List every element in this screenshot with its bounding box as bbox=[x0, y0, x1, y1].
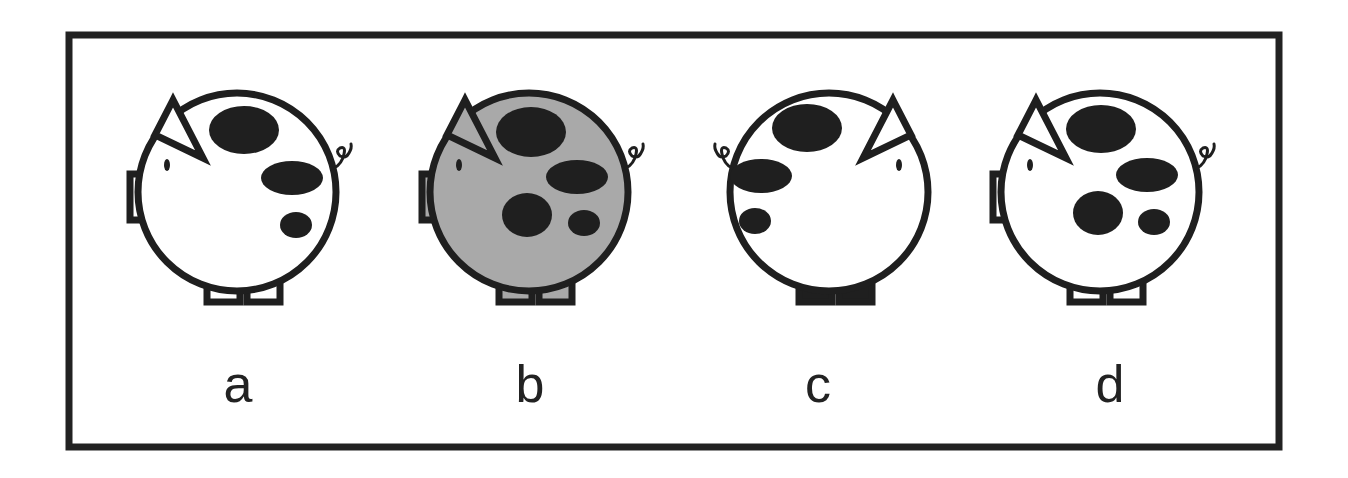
spot bbox=[209, 106, 279, 154]
pig-a[interactable] bbox=[130, 93, 351, 302]
spot bbox=[730, 159, 792, 193]
pig-d[interactable] bbox=[993, 93, 1214, 302]
spot bbox=[280, 212, 312, 238]
pig-options: abcd bbox=[130, 93, 1214, 413]
eye-dot bbox=[164, 159, 170, 171]
curly-tail bbox=[626, 144, 643, 168]
spot bbox=[739, 208, 771, 234]
spot bbox=[772, 104, 842, 152]
spot bbox=[1138, 209, 1170, 235]
spot bbox=[502, 193, 552, 237]
option-label-d: d bbox=[1096, 355, 1125, 413]
spot bbox=[568, 210, 600, 236]
curly-tail bbox=[1197, 144, 1214, 168]
curly-tail bbox=[334, 144, 351, 168]
spot bbox=[1116, 158, 1178, 192]
option-label-a: a bbox=[224, 355, 253, 413]
spot bbox=[496, 107, 566, 157]
spot bbox=[1073, 191, 1123, 235]
pig-c[interactable] bbox=[715, 93, 928, 302]
spot bbox=[546, 160, 608, 194]
eye-dot bbox=[1027, 159, 1033, 171]
option-label-c: c bbox=[805, 355, 831, 413]
spot bbox=[261, 161, 323, 195]
pig-comparison-figure: abcd bbox=[0, 0, 1348, 478]
option-label-b: b bbox=[516, 355, 545, 413]
pig-b[interactable] bbox=[422, 93, 643, 302]
eye-dot bbox=[456, 159, 462, 171]
spot bbox=[1066, 105, 1136, 153]
eye-dot bbox=[896, 159, 902, 171]
curly-tail bbox=[715, 144, 732, 168]
